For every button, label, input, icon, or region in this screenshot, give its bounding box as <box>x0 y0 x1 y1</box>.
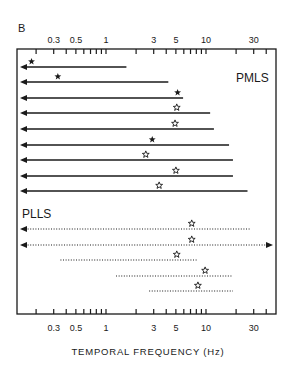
filled-star-icon <box>174 89 181 96</box>
bottom-tick-labels: 0.30.51351030 <box>47 323 258 333</box>
open-star-icon <box>188 236 195 243</box>
filled-star-icon <box>54 73 61 80</box>
range-row <box>20 120 214 132</box>
open-star-icon <box>173 251 180 258</box>
top-tick-labels: 0.30.51351030 <box>47 35 258 45</box>
open-star-icon <box>172 120 179 127</box>
open-star-icon <box>188 220 195 227</box>
arrow-left-icon <box>20 79 27 85</box>
arrow-left-icon <box>20 142 27 148</box>
bottom-tick-label: 10 <box>201 323 211 333</box>
bottom-tick-label: 5 <box>173 323 178 333</box>
open-star-icon <box>142 151 149 158</box>
range-row <box>20 89 183 101</box>
arrow-left-icon <box>20 95 27 101</box>
arrow-left-icon <box>20 64 27 70</box>
top-tick-label: 10 <box>201 35 211 45</box>
group-plls <box>20 220 273 291</box>
range-row <box>20 73 168 85</box>
panel-label: B <box>18 22 25 34</box>
top-tick-label: 5 <box>173 35 178 45</box>
range-row <box>20 220 251 232</box>
arrow-left-icon <box>20 110 27 116</box>
top-tick-label: 0.3 <box>47 35 60 45</box>
open-star-icon <box>202 267 209 274</box>
arrow-left-icon <box>20 188 27 194</box>
open-star-icon <box>156 182 163 189</box>
arrow-right-icon <box>266 242 273 248</box>
range-row <box>20 182 247 194</box>
range-row <box>20 151 233 163</box>
top-tick-label: 1 <box>103 35 108 45</box>
bottom-tick-label: 0.3 <box>47 323 60 333</box>
x-axis-title: TEMPORAL FREQUENCY (Hz) <box>72 346 225 357</box>
open-star-icon <box>173 104 180 111</box>
group-label-plls: PLLS <box>22 207 51 221</box>
bottom-tick-label: 30 <box>249 323 259 333</box>
range-row <box>116 267 233 276</box>
group-pmls <box>20 58 247 194</box>
range-row <box>20 104 210 116</box>
filled-star-icon <box>28 58 35 65</box>
arrow-left-icon <box>20 157 27 163</box>
open-star-icon <box>172 167 179 174</box>
top-tick-label: 0.5 <box>70 35 83 45</box>
group-label-pmls: PMLS <box>236 71 269 85</box>
bottom-tick-label: 0.5 <box>70 323 83 333</box>
arrow-left-icon <box>20 242 27 248</box>
range-row <box>20 236 273 248</box>
bottom-tick-label: 3 <box>151 323 156 333</box>
top-tick-label: 30 <box>249 35 259 45</box>
range-row <box>60 251 196 260</box>
bottom-tick-label: 1 <box>103 323 108 333</box>
range-row <box>20 136 229 148</box>
arrow-left-icon <box>20 226 27 232</box>
range-row <box>20 167 233 179</box>
range-row <box>149 282 233 291</box>
top-tick-label: 3 <box>151 35 156 45</box>
filled-star-icon <box>149 136 156 143</box>
plot-frame <box>17 49 276 314</box>
frame-rect <box>17 49 276 314</box>
arrow-left-icon <box>20 126 27 132</box>
arrow-left-icon <box>20 173 27 179</box>
range-groups <box>20 58 273 291</box>
axis-ticks <box>36 49 266 314</box>
open-star-icon <box>194 282 201 289</box>
temporal-frequency-range-chart: B 0.30.51351030 0.30.51351030 PMLS PLLS … <box>0 0 290 370</box>
range-row <box>20 58 126 70</box>
